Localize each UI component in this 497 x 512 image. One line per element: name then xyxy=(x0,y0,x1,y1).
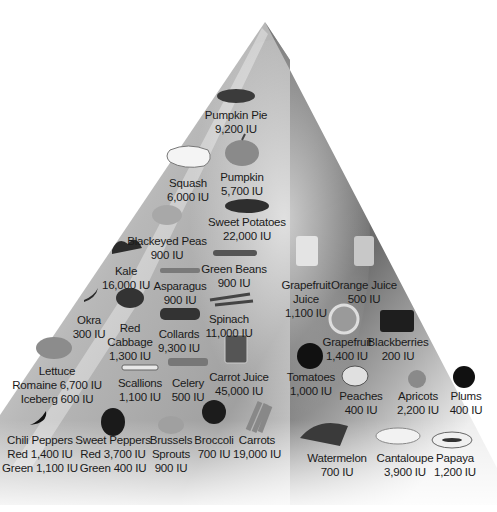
food-name: Apricots xyxy=(397,389,439,403)
food-value: Juice xyxy=(281,292,330,306)
food-value: 9,200 IU xyxy=(205,122,267,136)
food-value: 19,000 IU xyxy=(233,447,281,461)
asparagus-icon xyxy=(160,268,200,273)
food-name: Green Beans xyxy=(201,262,267,276)
cantaloupe-icon xyxy=(376,428,420,444)
food-name: Pumpkin Pie xyxy=(205,108,267,122)
food-value: 22,000 IU xyxy=(208,229,286,243)
food-value: 700 IU xyxy=(307,465,367,479)
vitamin-a-food-pyramid: Pumpkin Pie9,200 IUPumpkin5,700 IUSquash… xyxy=(0,0,497,512)
food-value: 1,300 IU xyxy=(107,349,152,363)
food-name: Spinach xyxy=(205,312,252,326)
food-name: Kale xyxy=(102,264,150,278)
food-value: 400 IU xyxy=(339,403,382,417)
food-value: 45,000 IU xyxy=(209,384,269,398)
food-value: 300 IU xyxy=(73,327,106,341)
juice-glass-icon xyxy=(296,236,318,266)
food-label-orange-juice: Orange Juice500 IU xyxy=(331,278,397,306)
food-name: Cantaloupe xyxy=(377,451,434,465)
food-label-watermelon: Watermelon700 IU xyxy=(307,451,367,479)
food-name: Blackberries xyxy=(368,335,429,349)
green-beans-icon xyxy=(213,250,257,256)
food-label-lettuce: LettuceRomaine 6,700 IUIceberg 600 IU xyxy=(12,364,102,406)
food-label-carrots: Carrots19,000 IU xyxy=(233,433,281,461)
food-value: 700 IU xyxy=(194,447,233,461)
food-label-blackberries: Blackberries200 IU xyxy=(368,335,429,363)
food-name: Sweet Potatoes xyxy=(208,215,286,229)
food-label-grapefruit-juice: GrapefruitJuice1,100 IU xyxy=(281,278,330,320)
food-label-plums: Plums400 IU xyxy=(450,389,483,417)
food-value: Iceberg 600 IU xyxy=(12,392,102,406)
food-name: Grapefruit xyxy=(281,278,330,292)
food-value: 1,400 IU xyxy=(322,349,371,363)
food-name: Plums xyxy=(450,389,483,403)
food-name: Papaya xyxy=(434,451,476,465)
food-name: Sweet Peppers xyxy=(75,433,150,447)
food-label-broccoli: Broccoli700 IU xyxy=(194,433,233,461)
scallions-icon xyxy=(122,365,158,370)
food-name: Grapefruit xyxy=(322,335,371,349)
food-label-kale: Kale16,000 IU xyxy=(102,264,150,292)
food-name: Peaches xyxy=(339,389,382,403)
grapefruit-icon xyxy=(330,305,358,333)
food-label-green-beans: Green Beans900 IU xyxy=(201,262,267,290)
lettuce-icon xyxy=(36,337,72,359)
food-name: Blackeyed Peas xyxy=(127,234,207,248)
food-label-sweet-potatoes: Sweet Potatoes22,000 IU xyxy=(208,215,286,243)
food-value: 500 IU xyxy=(172,390,205,404)
food-label-peaches: Peaches400 IU xyxy=(339,389,382,417)
food-name: Chili Peppers xyxy=(2,433,78,447)
food-label-scallions: Scallions1,100 IU xyxy=(118,376,162,404)
food-label-pumpkin: Pumpkin5,700 IU xyxy=(220,170,263,198)
food-name: Watermelon xyxy=(307,451,367,465)
food-name: Carrot Juice xyxy=(209,370,269,384)
food-value: 1,100 IU xyxy=(118,390,162,404)
food-name: Collards xyxy=(158,327,200,341)
food-label-grapefruit: Grapefruit1,400 IU xyxy=(322,335,371,363)
food-value: 900 IU xyxy=(201,276,267,290)
food-name: Scallions xyxy=(118,376,162,390)
bell-pepper-icon xyxy=(101,408,125,436)
food-value: Cabbage xyxy=(107,335,152,349)
food-value: 200 IU xyxy=(368,349,429,363)
sweet-potato-icon xyxy=(225,199,269,213)
food-label-sweet-peppers: Sweet PeppersRed 3,700 IUGreen 400 IU xyxy=(75,433,150,475)
food-value: Red 1,400 IU xyxy=(2,447,78,461)
tomato-icon xyxy=(297,343,323,369)
food-value: Red 3,700 IU xyxy=(75,447,150,461)
food-value: Green 400 IU xyxy=(75,461,150,475)
pumpkin-icon xyxy=(225,140,259,166)
food-label-celery: Celery500 IU xyxy=(172,376,205,404)
food-label-papaya: Papaya1,200 IU xyxy=(434,451,476,479)
squash-icon xyxy=(167,146,210,167)
food-value: Green 1,100 IU xyxy=(2,461,78,475)
brussels-icon xyxy=(158,416,184,434)
food-value: 400 IU xyxy=(450,403,483,417)
food-label-chili-peppers: Chili PeppersRed 1,400 IUGreen 1,100 IU xyxy=(2,433,78,475)
food-label-carrot-juice: Carrot Juice45,000 IU xyxy=(209,370,269,398)
food-value: 1,000 IU xyxy=(287,384,335,398)
food-name: Asparagus xyxy=(153,279,206,293)
blackberries-icon xyxy=(380,310,414,332)
food-value: 11,000 IU xyxy=(205,326,252,340)
food-name: Red xyxy=(107,321,152,335)
food-value: 2,200 IU xyxy=(397,403,439,417)
apricot-icon xyxy=(408,370,426,388)
plum-icon xyxy=(453,366,475,388)
food-value: 5,700 IU xyxy=(220,184,263,198)
food-label-red-cabbage: RedCabbage1,300 IU xyxy=(107,321,152,363)
juice-glass-icon xyxy=(354,236,374,266)
broccoli-icon xyxy=(202,400,226,424)
food-label-okra: Okra300 IU xyxy=(73,313,106,341)
food-name: Pumpkin xyxy=(220,170,263,184)
food-value: 900 IU xyxy=(153,293,206,307)
food-name: Carrots xyxy=(233,433,281,447)
food-label-collards: Collards9,300 IU xyxy=(158,327,200,355)
collards-icon xyxy=(160,308,200,320)
food-name: Broccoli xyxy=(194,433,233,447)
food-value: 16,000 IU xyxy=(102,278,150,292)
food-name: Okra xyxy=(73,313,106,327)
food-name: Celery xyxy=(172,376,205,390)
food-label-asparagus: Asparagus900 IU xyxy=(153,279,206,307)
food-value: 1,200 IU xyxy=(434,465,476,479)
